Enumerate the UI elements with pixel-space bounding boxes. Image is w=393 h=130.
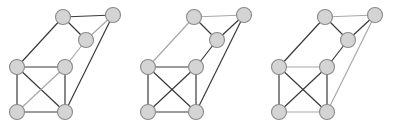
graph-node: [210, 33, 225, 48]
graph-node: [237, 8, 252, 23]
graph-node: [141, 105, 156, 120]
graph-node: [10, 60, 25, 75]
graph-node: [341, 33, 356, 48]
graph-panel-3: [262, 0, 393, 130]
graph-node: [368, 8, 383, 23]
graph-figure: [0, 0, 393, 130]
graph-canvas-2: [131, 0, 262, 130]
graph-panel-1: [0, 0, 131, 130]
graph-node: [318, 10, 333, 25]
graph-node: [320, 105, 335, 120]
graph-node: [56, 10, 71, 25]
graph-node: [189, 105, 204, 120]
graph-edge: [279, 17, 325, 67]
graph-canvas-3: [262, 0, 393, 130]
graph-panel-2: [131, 0, 262, 130]
graph-node: [272, 105, 287, 120]
graph-node: [187, 10, 202, 25]
graph-node: [58, 105, 73, 120]
graph-canvas-1: [0, 0, 131, 130]
graph-edge: [148, 17, 194, 67]
graph-node: [10, 105, 25, 120]
graph-node: [106, 8, 121, 23]
graph-node: [189, 60, 204, 75]
graph-node: [320, 60, 335, 75]
graph-node: [141, 60, 156, 75]
graph-node: [272, 60, 287, 75]
graph-edge: [17, 17, 63, 67]
graph-node: [58, 60, 73, 75]
graph-node: [79, 33, 94, 48]
